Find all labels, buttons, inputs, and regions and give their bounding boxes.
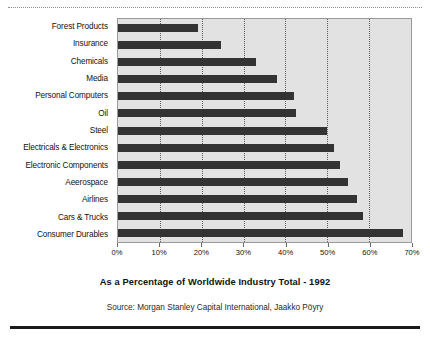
bar xyxy=(118,195,357,203)
category-label: Cars & Trucks xyxy=(0,208,113,225)
axis-tick xyxy=(243,243,244,247)
bar-row xyxy=(118,156,411,173)
category-label: Steel xyxy=(0,122,113,139)
bar xyxy=(118,161,340,169)
axis-tick-label: 40% xyxy=(278,248,293,257)
category-axis: Forest Products Insurance Chemicals Medi… xyxy=(0,18,113,243)
bar-row xyxy=(118,36,411,53)
bar-series xyxy=(118,19,411,242)
value-axis: 0%10%20%30%40%50%60%70% xyxy=(117,243,412,267)
axis-tick-label: 10% xyxy=(152,248,167,257)
bar xyxy=(118,212,363,220)
bar-chart: Forest Products Insurance Chemicals Medi… xyxy=(0,18,430,268)
axis-tick-label: 60% xyxy=(362,248,377,257)
bar-row xyxy=(118,105,411,122)
category-label: Oil xyxy=(0,105,113,122)
plot-area xyxy=(117,18,412,243)
category-label: Forest Products xyxy=(0,18,113,35)
axis-tick xyxy=(286,243,287,247)
bar xyxy=(118,127,327,135)
top-dotted-divider xyxy=(8,7,422,8)
category-label: Electricals & Electronics xyxy=(0,139,113,156)
axis-tick xyxy=(370,243,371,247)
source-note: Source: Morgan Stanley Capital Internati… xyxy=(0,303,430,312)
category-label: Consumer Durables xyxy=(0,226,113,243)
axis-tick-label: 50% xyxy=(320,248,335,257)
category-label: Chemicals xyxy=(0,53,113,70)
bar-row xyxy=(118,70,411,87)
bar-row xyxy=(118,191,411,208)
bar-row xyxy=(118,173,411,190)
category-label: Insurance xyxy=(0,35,113,52)
bar xyxy=(118,178,348,186)
bar xyxy=(118,229,403,237)
bar-row xyxy=(118,122,411,139)
axis-tick xyxy=(412,243,413,247)
bar-row xyxy=(118,53,411,70)
bottom-divider xyxy=(10,326,420,329)
bar-row xyxy=(118,88,411,105)
axis-tick-label: 30% xyxy=(236,248,251,257)
axis-tick-label: 70% xyxy=(404,248,419,257)
category-label: Media xyxy=(0,70,113,87)
bar-row xyxy=(118,225,411,242)
axis-tick-label: 20% xyxy=(194,248,209,257)
category-label: Aeerospace xyxy=(0,174,113,191)
bar xyxy=(118,75,277,83)
category-label: Personal Computers xyxy=(0,87,113,104)
bar xyxy=(118,24,198,32)
bar-row xyxy=(118,19,411,36)
category-label: Airlines xyxy=(0,191,113,208)
bar-row xyxy=(118,208,411,225)
bar xyxy=(118,109,296,117)
axis-tick xyxy=(117,243,118,247)
category-label: Electronic Components xyxy=(0,157,113,174)
bar xyxy=(118,58,256,66)
axis-tick xyxy=(201,243,202,247)
bar-row xyxy=(118,139,411,156)
axis-tick-label: 0% xyxy=(112,248,123,257)
bar xyxy=(118,41,221,49)
axis-tick xyxy=(159,243,160,247)
axis-title: As a Percentage of Worldwide Industry To… xyxy=(0,277,430,287)
bar xyxy=(118,144,334,152)
figure-page: Forest Products Insurance Chemicals Medi… xyxy=(0,0,430,344)
bar xyxy=(118,92,294,100)
axis-tick xyxy=(328,243,329,247)
